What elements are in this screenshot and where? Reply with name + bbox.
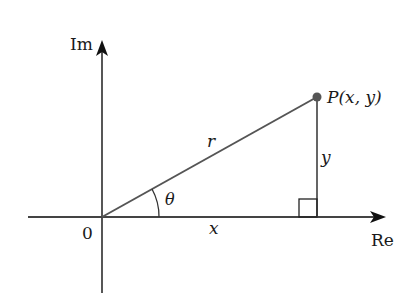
imaginary-axis-label: Im [70,36,93,53]
radius-line [102,97,317,217]
point-p-marker [313,93,322,102]
point-p-label: P(x, y) [327,89,382,106]
origin-label: 0 [82,225,93,242]
theta-label: θ [165,192,175,208]
radius-label: r [207,133,215,150]
angle-arc [152,189,159,217]
real-axis-label: Re [371,232,394,249]
x-label: x [209,220,219,237]
y-label: y [321,149,331,166]
right-angle-marker [299,199,317,217]
